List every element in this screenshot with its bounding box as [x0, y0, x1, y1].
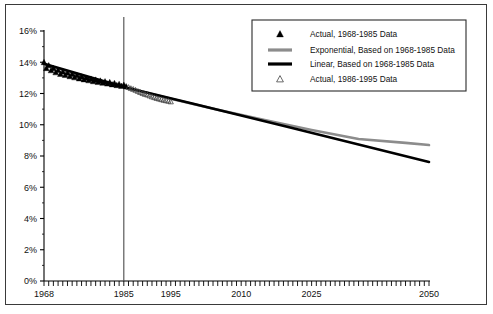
y-tick-label-12%: 12% — [19, 89, 37, 99]
y-tick-label-4%: 4% — [24, 214, 37, 224]
y-tick-label-16%: 16% — [19, 26, 37, 36]
y-tick-label-6%: 6% — [24, 183, 37, 193]
legend-label-2: Linear, Based on 1968-1985 Data — [310, 59, 434, 69]
x-tick-label-2010: 2010 — [231, 289, 251, 299]
x-tick-label-2050: 2050 — [419, 289, 439, 299]
chart-figure: 0%2%4%6%8%10%12%14%16%196819851995201020… — [0, 0, 493, 314]
x-tick-label-1968: 1968 — [34, 289, 54, 299]
x-tick-label-2025: 2025 — [302, 289, 322, 299]
x-tick-label-1985: 1985 — [114, 289, 134, 299]
x-tick-label-1995: 1995 — [161, 289, 181, 299]
legend-label-1: Exponential, Based on 1968-1985 Data — [310, 45, 455, 55]
y-tick-label-14%: 14% — [19, 58, 37, 68]
chart-plot: 0%2%4%6%8%10%12%14%16%196819851995201020… — [0, 0, 493, 314]
y-tick-label-0%: 0% — [24, 276, 37, 286]
y-tick-label-8%: 8% — [24, 151, 37, 161]
legend-label-0: Actual, 1968-1985 Data — [310, 29, 398, 39]
legend-label-3: Actual, 1986-1995 Data — [310, 74, 398, 84]
y-tick-label-10%: 10% — [19, 120, 37, 130]
y-tick-label-2%: 2% — [24, 245, 37, 255]
